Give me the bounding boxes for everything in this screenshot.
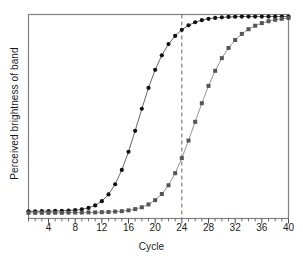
data-point: [107, 210, 111, 214]
data-point: [40, 211, 44, 215]
data-point: [193, 20, 197, 24]
data-point: [226, 15, 230, 19]
x-tick-label: 20: [143, 222, 167, 233]
x-tick-label: 28: [197, 222, 221, 233]
data-point: [87, 210, 91, 214]
series-layer: [26, 14, 290, 214]
x-tick-label: 24: [170, 222, 194, 233]
data-point: [186, 23, 190, 27]
data-point: [220, 56, 224, 60]
data-point: [206, 17, 210, 21]
series-line-0: [29, 17, 289, 212]
data-point: [173, 34, 177, 38]
x-tick-label: 4: [37, 222, 61, 233]
data-point: [127, 208, 131, 212]
x-tick-label: 40: [277, 222, 301, 233]
data-point: [53, 211, 57, 215]
x-tick-label: 12: [90, 222, 114, 233]
data-point: [200, 18, 204, 22]
data-point: [227, 46, 231, 50]
data-point: [80, 211, 84, 215]
y-axis-label: Perceived brightness of band: [9, 14, 20, 214]
data-point: [27, 211, 31, 215]
x-axis-label: Cycle: [0, 241, 303, 252]
data-point: [126, 150, 130, 154]
data-point: [266, 14, 270, 18]
data-point: [113, 182, 117, 186]
data-point: [166, 42, 170, 46]
data-point: [140, 107, 144, 111]
data-point: [213, 69, 217, 73]
data-point: [73, 211, 77, 215]
data-point: [33, 211, 37, 215]
data-point: [133, 207, 137, 211]
data-point: [247, 27, 251, 31]
data-point: [200, 101, 204, 105]
data-point: [246, 14, 250, 18]
data-point: [260, 21, 264, 25]
data-point: [253, 24, 257, 28]
x-tick-label: 16: [117, 222, 141, 233]
data-point: [180, 156, 184, 160]
data-point: [233, 15, 237, 19]
data-point: [86, 206, 90, 210]
x-tick-label: 32: [223, 222, 247, 233]
data-point: [260, 14, 264, 18]
data-point: [67, 211, 71, 215]
data-point: [93, 210, 97, 214]
data-point: [273, 18, 277, 22]
data-point: [253, 14, 257, 18]
data-point: [240, 32, 244, 36]
chart-figure: Perceived brightness of band Cycle 48121…: [0, 0, 303, 261]
data-point: [93, 203, 97, 207]
data-point: [153, 68, 157, 72]
data-point: [160, 53, 164, 57]
data-point: [60, 211, 64, 215]
data-point: [147, 202, 151, 206]
data-point: [160, 192, 164, 196]
data-point: [193, 120, 197, 124]
data-point: [120, 209, 124, 213]
data-point: [47, 211, 51, 215]
data-point: [133, 129, 137, 133]
data-point: [153, 198, 157, 202]
data-point: [167, 183, 171, 187]
data-point: [213, 16, 217, 20]
data-point: [240, 14, 244, 18]
data-point: [120, 168, 124, 172]
data-point: [100, 210, 104, 214]
x-tick-label: 36: [250, 222, 274, 233]
data-point: [180, 28, 184, 32]
data-point: [106, 192, 110, 196]
data-point: [287, 16, 291, 20]
data-point: [173, 171, 177, 175]
series-line-1: [29, 18, 289, 213]
data-point: [187, 139, 191, 143]
data-point: [233, 38, 237, 42]
data-point: [113, 210, 117, 214]
data-point: [280, 17, 284, 21]
data-point: [267, 19, 271, 23]
data-point: [100, 199, 104, 203]
data-point: [207, 84, 211, 88]
plot-frame: [29, 15, 289, 219]
x-tick-label: 8: [63, 222, 87, 233]
data-point: [146, 86, 150, 90]
data-point: [220, 15, 224, 19]
data-point: [140, 205, 144, 209]
